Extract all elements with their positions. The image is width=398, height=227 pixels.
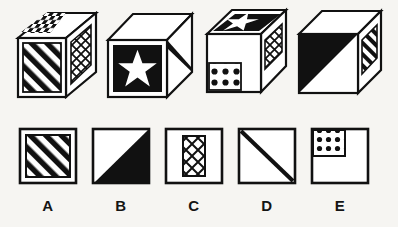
cube-3-front-dots [209, 63, 241, 90]
option-e-label: E [310, 197, 370, 214]
puzzle-canvas: A B C D E [0, 0, 398, 227]
option-c-label: C [164, 197, 224, 214]
option-a-figure[interactable] [20, 129, 76, 183]
cube-1-front-stripes [23, 43, 61, 92]
cube-4 [299, 11, 381, 93]
cube-3 [207, 10, 286, 92]
cube-1 [0, 10, 96, 97]
option-a-label: A [18, 197, 78, 214]
option-b-figure[interactable] [93, 129, 149, 183]
option-d-figure[interactable] [239, 129, 295, 183]
option-e-figure[interactable] [312, 129, 368, 183]
option-b-label: B [91, 197, 151, 214]
option-a-stripes [26, 135, 70, 177]
option-e-dots [313, 130, 345, 156]
option-d-label: D [237, 197, 297, 214]
option-c-figure[interactable] [166, 129, 222, 183]
option-c-lattice-panel [183, 136, 205, 176]
puzzle-illustration [0, 0, 398, 227]
